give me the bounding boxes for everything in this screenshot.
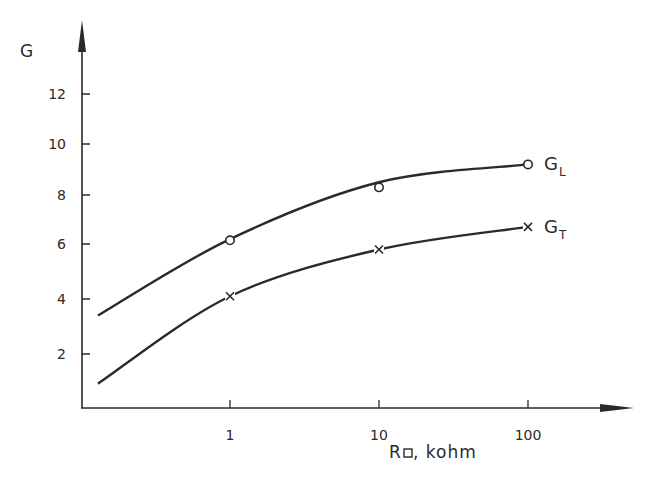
x-tick-label: 1 [226,427,235,443]
series-label: G [544,216,558,237]
chart: 24681012 110100 G R , kohm GLGT [0,0,654,490]
cross-marker-icon [523,222,533,232]
circle-marker-icon [524,160,532,168]
y-axis-label: G [20,41,33,61]
y-tick-label: 8 [57,187,66,203]
x-axis-arrow-icon [600,404,634,412]
x-tick-label: 100 [515,427,542,443]
y-tick-label: 2 [57,346,66,362]
y-axis-arrow-icon [78,20,86,52]
series-layer: GLGT [98,153,567,383]
series-g-l: GL [98,153,566,315]
y-ticks: 24681012 [48,86,90,362]
x-ticks: 110100 [226,400,542,443]
y-tick-label: 10 [48,136,66,152]
series-label-subscript: T [558,228,567,242]
curve-line [98,227,528,384]
circle-marker-icon [226,236,234,244]
curve-line [98,164,528,315]
series-label: G [544,153,558,174]
circle-marker-icon [375,183,383,191]
cross-marker-icon [225,291,235,301]
series-label-subscript: L [559,165,566,179]
x-axis-label: R , kohm [389,442,477,462]
y-tick-label: 4 [57,291,66,307]
y-tick-label: 6 [57,236,66,252]
svg-text:R: R [389,442,401,462]
square-subscript-icon [404,449,412,457]
series-g-t: GT [98,216,567,384]
cross-marker-icon [374,245,384,255]
y-tick-label: 12 [48,86,66,102]
svg-text:, kohm: , kohm [413,442,477,462]
x-tick-label: 10 [370,427,388,443]
